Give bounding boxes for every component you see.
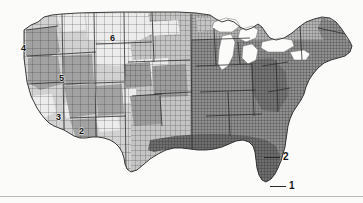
map-canvas: [0, 0, 363, 203]
callout-1: 1: [270, 181, 295, 191]
callout-1-label: 1: [289, 181, 295, 191]
callout-2-label: 2: [283, 152, 289, 162]
us-county-map-graphic: [0, 0, 363, 203]
callout-2: 2: [264, 152, 289, 162]
county-map-figure: 2 3 4 5 6 2 1: [0, 0, 363, 203]
inset-label-2: 2: [79, 127, 84, 136]
inset-label-3: 3: [56, 113, 61, 122]
map-landmass: [0, 0, 363, 203]
inset-label-4: 4: [21, 44, 26, 53]
leader-line-icon: [264, 157, 280, 158]
leader-line-icon: [270, 186, 286, 187]
bottom-rule: [0, 196, 363, 197]
inset-label-6: 6: [110, 34, 115, 43]
inset-label-5: 5: [59, 74, 64, 83]
